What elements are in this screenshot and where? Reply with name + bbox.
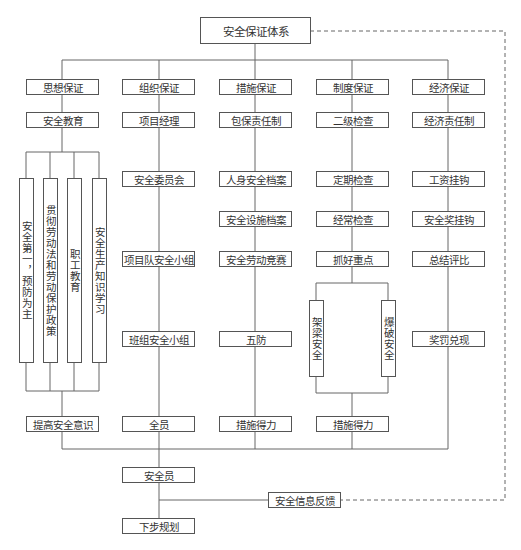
node-label: 措施得力 [236, 417, 276, 432]
node-safety-bonus-linked: 安全奖挂钩 [412, 211, 485, 227]
node-safety-officer: 安全员 [122, 467, 195, 483]
node-label: 总结评比 [429, 252, 469, 267]
node-label: 安全生产知识学习 [94, 227, 106, 315]
node-periodic-inspection: 定期检查 [316, 171, 389, 187]
header-institutional: 制度保证 [316, 79, 389, 95]
node-crew-group: 班组安全小组 [122, 331, 195, 347]
node-label: 贯彻劳动法和劳动保护政策 [45, 205, 57, 337]
node-label: 思想保证 [43, 80, 83, 95]
node-label: 安全委员会 [134, 172, 184, 187]
node-safety-education: 安全教育 [26, 112, 99, 128]
node-label: 安全信息反馈 [275, 493, 335, 508]
node-label: 人身安全档案 [226, 172, 286, 187]
node-safety-feedback: 安全信息反馈 [268, 492, 341, 508]
node-two-level-inspection: 二级检查 [316, 112, 389, 128]
node-labor-law: 贯彻劳动法和劳动保护政策 [43, 178, 58, 363]
node-label: 安全教育 [43, 113, 83, 128]
node-summary-evaluation: 总结评比 [412, 251, 485, 267]
node-label: 工资挂钩 [429, 172, 469, 187]
node-label: 包保责任制 [231, 113, 281, 128]
node-project-team-group: 项目队安全小组 [122, 251, 195, 267]
node-routine-inspection: 经常检查 [316, 211, 389, 227]
node-label: 安全第一，预防为主 [21, 221, 33, 320]
node-label: 奖罚兑现 [429, 332, 469, 347]
node-safety-first: 安全第一，预防为主 [19, 178, 34, 363]
node-all-staff: 全员 [122, 416, 195, 432]
node-focus-key-points: 抓好重点 [316, 251, 389, 267]
node-label: 经济保证 [429, 80, 469, 95]
node-effective-measures-2: 措施得力 [316, 416, 389, 432]
node-label: 经济责任制 [424, 113, 474, 128]
node-label: 班组安全小组 [129, 332, 189, 347]
node-erection-safety: 架梁安全 [309, 300, 324, 377]
node-label: 项目经理 [139, 113, 179, 128]
node-label: 安全奖挂钩 [424, 212, 474, 227]
node-label: 提高安全意识 [33, 417, 93, 432]
node-label: 定期检查 [333, 172, 373, 187]
node-economic-responsibility: 经济责任制 [412, 112, 485, 128]
header-ideological: 思想保证 [26, 79, 99, 95]
node-safety-knowledge: 安全生产知识学习 [92, 178, 107, 363]
node-label: 下步规划 [139, 519, 179, 534]
node-wage-linked: 工资挂钩 [412, 171, 485, 187]
node-label: 制度保证 [333, 80, 373, 95]
node-label: 安全设施档案 [226, 212, 286, 227]
node-next-plan: 下步规划 [122, 518, 195, 534]
node-label: 措施保证 [236, 80, 276, 95]
node-responsibility-system: 包保责任制 [219, 112, 292, 128]
node-effective-measures-1: 措施得力 [219, 416, 292, 432]
node-five-preventions: 五防 [219, 331, 292, 347]
node-label: 全员 [149, 417, 169, 432]
node-safety-committee: 安全委员会 [122, 171, 195, 187]
node-label: 安全劳动竞赛 [226, 252, 286, 267]
node-label: 架梁安全 [311, 317, 323, 361]
node-label: 组织保证 [139, 80, 179, 95]
node-staff-education: 职工教育 [67, 178, 82, 363]
node-label: 爆破安全 [383, 317, 395, 361]
node-label: 五防 [246, 332, 266, 347]
node-label: 职工教育 [69, 249, 81, 293]
root-node: 安全保证体系 [200, 17, 311, 44]
node-label: 二级检查 [333, 113, 373, 128]
node-blasting-safety: 爆破安全 [381, 300, 396, 377]
safety-assurance-diagram: 安全保证体系 思想保证 安全教育 安全第一，预防为主 贯彻劳动法和劳动保护政策 … [0, 0, 521, 550]
root-label: 安全保证体系 [223, 23, 289, 39]
node-label: 经常检查 [333, 212, 373, 227]
node-raise-awareness: 提高安全意识 [26, 416, 99, 432]
header-measures: 措施保证 [219, 79, 292, 95]
header-organizational: 组织保证 [122, 79, 195, 95]
node-personal-safety-file: 人身安全档案 [219, 171, 292, 187]
node-label: 措施得力 [333, 417, 373, 432]
node-safety-facility-file: 安全设施档案 [219, 211, 292, 227]
node-label: 抓好重点 [333, 252, 373, 267]
node-project-manager: 项目经理 [122, 112, 195, 128]
node-rewards-penalties: 奖罚兑现 [412, 331, 485, 347]
node-labor-competition: 安全劳动竞赛 [219, 251, 292, 267]
node-label: 安全员 [144, 468, 174, 483]
node-label: 项目队安全小组 [124, 252, 194, 267]
header-economic: 经济保证 [412, 79, 485, 95]
